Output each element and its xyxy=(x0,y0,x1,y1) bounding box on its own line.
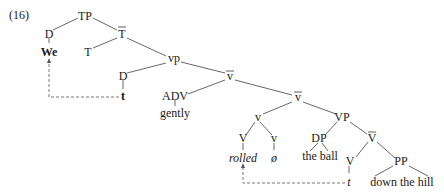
null-head: ø xyxy=(270,151,278,165)
example-number: (16) xyxy=(9,8,29,22)
words-down-the-hill: down the hill xyxy=(370,175,434,189)
node-V-lower: V xyxy=(346,154,355,168)
node-DP: DP xyxy=(311,131,327,145)
node-adv: ADV xyxy=(162,89,188,103)
trace-verb: t xyxy=(347,175,351,189)
node-d-spec: D xyxy=(119,69,128,83)
syntax-tree: (16) TP D We T T vp D t v ADV gently v v… xyxy=(0,0,444,195)
word-the-ball: the ball xyxy=(302,149,338,163)
node-VP: VP xyxy=(334,110,350,124)
node-vp-small: vp xyxy=(168,51,180,65)
node-v-head: v xyxy=(271,131,277,145)
node-t-bar: T xyxy=(118,27,126,41)
node-d: D xyxy=(45,27,54,41)
word-we: We xyxy=(41,45,58,59)
movement-arrows xyxy=(47,58,345,183)
trace-subject: t xyxy=(121,89,125,103)
node-v-small: v xyxy=(255,110,261,124)
subject-movement-arrow xyxy=(49,63,119,97)
node-V: V xyxy=(239,131,248,145)
node-PP: PP xyxy=(394,154,408,168)
verb-movement-arrow xyxy=(243,168,345,183)
word-gently: gently xyxy=(160,106,190,120)
word-rolled: rolled xyxy=(229,151,258,165)
node-tp: TP xyxy=(78,9,92,23)
node-t: T xyxy=(84,45,92,59)
node-V-bar: V xyxy=(368,131,377,145)
